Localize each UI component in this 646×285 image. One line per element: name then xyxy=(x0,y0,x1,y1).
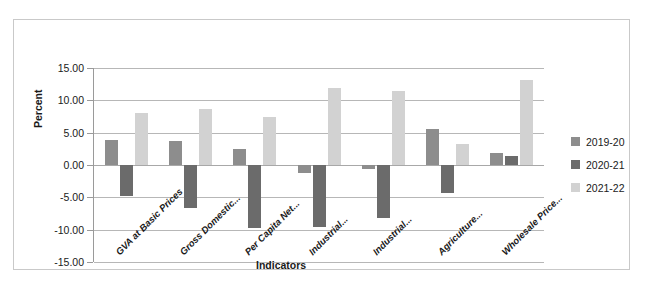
bar-2019-20-cat0 xyxy=(105,140,118,165)
y-axis-tick xyxy=(87,68,93,69)
y-axis-tick-label: 0.00 xyxy=(36,160,84,171)
bar-2019-20-cat5 xyxy=(426,129,439,165)
y-axis-tick xyxy=(87,262,93,263)
y-axis-tick xyxy=(87,100,93,101)
y-axis-tick xyxy=(87,230,93,231)
y-axis-tick xyxy=(87,133,93,134)
chart-legend: 2019-202020-212021-22 xyxy=(571,130,646,199)
bar-2019-20-cat2 xyxy=(233,149,246,165)
y-axis-tick xyxy=(87,165,93,166)
bar-2020-21-cat6 xyxy=(505,156,518,165)
legend-swatch-icon xyxy=(571,137,580,146)
legend-swatch-icon xyxy=(571,160,580,169)
legend-item[interactable]: 2021-22 xyxy=(571,176,646,199)
bar-2020-21-cat5 xyxy=(441,165,454,193)
bar-2019-20-cat6 xyxy=(490,153,503,165)
bar-2020-21-cat4 xyxy=(377,165,390,218)
y-axis-tick-label: 5.00 xyxy=(36,128,84,139)
legend-item[interactable]: 2020-21 xyxy=(571,153,646,176)
bar-2021-22-cat6 xyxy=(520,80,533,165)
y-axis-tick-label: 15.00 xyxy=(36,63,84,74)
bar-2020-21-cat1 xyxy=(184,165,197,208)
bar-2021-22-cat2 xyxy=(263,117,276,166)
chart-container: 15.0010.005.000.00-5.00-10.00-15.00 Perc… xyxy=(13,19,630,270)
legend-item-label: 2020-21 xyxy=(586,159,625,171)
bar-2019-20-cat4 xyxy=(362,165,375,169)
bar-2020-21-cat0 xyxy=(120,165,133,196)
bar-2019-20-cat1 xyxy=(169,141,182,165)
bar-2021-22-cat1 xyxy=(199,109,212,165)
legend-item[interactable]: 2019-20 xyxy=(571,130,646,153)
legend-swatch-icon xyxy=(571,183,580,192)
legend-item-label: 2021-22 xyxy=(586,182,625,194)
y-axis-tick-label: -5.00 xyxy=(36,192,84,203)
y-axis-tick xyxy=(87,197,93,198)
bar-2021-22-cat5 xyxy=(456,144,469,165)
plot-area xyxy=(94,68,544,262)
gridline xyxy=(94,262,544,263)
y-axis-tick-label: -15.00 xyxy=(36,257,84,268)
bar-2019-20-cat3 xyxy=(298,165,311,173)
y-axis-title: Percent xyxy=(32,89,44,128)
bar-2021-22-cat0 xyxy=(135,113,148,165)
y-axis-tick-label: -10.00 xyxy=(36,225,84,236)
bar-2020-21-cat3 xyxy=(313,165,326,227)
bar-2021-22-cat3 xyxy=(328,88,341,165)
legend-item-label: 2019-20 xyxy=(586,136,625,148)
bar-2021-22-cat4 xyxy=(392,91,405,165)
bar-2020-21-cat2 xyxy=(248,165,261,228)
